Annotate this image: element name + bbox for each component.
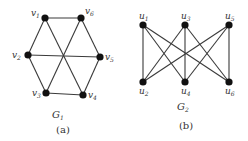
node-label-u4: u4 <box>181 86 191 97</box>
node-label-v4: v4 <box>88 90 97 101</box>
edge-v3-v4 <box>46 93 83 95</box>
node-label-v3: v3 <box>32 88 41 99</box>
node-u5 <box>225 21 232 28</box>
node-label-u6: u6 <box>225 86 235 97</box>
node-u2 <box>139 78 146 85</box>
node-label-v6: v6 <box>85 6 94 17</box>
caption-a: (a) <box>56 124 70 135</box>
node-u1 <box>139 21 146 28</box>
node-u6 <box>225 78 232 85</box>
node-label-u1: u1 <box>139 11 149 22</box>
node-v5 <box>96 53 103 60</box>
edge-v6-v5 <box>81 18 100 57</box>
edge-v1-v2 <box>28 18 45 55</box>
graph-g2-title: G2 <box>177 101 189 113</box>
node-label-v1: v1 <box>31 8 40 19</box>
node-label-u3: u3 <box>181 11 191 22</box>
node-label-u2: u2 <box>139 86 149 97</box>
node-u3 <box>181 21 188 28</box>
node-v6 <box>77 14 84 21</box>
node-v3 <box>42 89 49 96</box>
caption-b: (b) <box>179 120 193 131</box>
graph-g2: u1u2u3u4u5u6 <box>139 11 235 97</box>
node-label-v5: v5 <box>105 52 114 63</box>
graph-g1-title: G1 <box>52 109 64 121</box>
node-v2 <box>24 51 31 58</box>
node-v4 <box>79 91 86 98</box>
graph-figure: v1v2v3v4v5v6 u1u2u3u4u5u6 G1 (a) G2 (b) <box>0 0 248 141</box>
graph-g1: v1v2v3v4v5v6 <box>12 6 114 101</box>
node-v1 <box>41 14 48 21</box>
node-label-v2: v2 <box>12 50 21 61</box>
node-u4 <box>181 78 188 85</box>
node-label-u5: u5 <box>225 11 235 22</box>
